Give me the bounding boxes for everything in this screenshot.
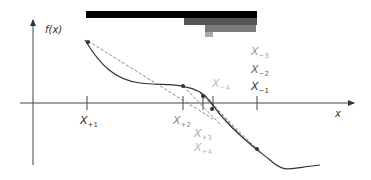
label-x-minus-4: X−4 (211, 77, 230, 92)
bar-3 (205, 25, 256, 32)
bar-2 (184, 18, 257, 25)
bar-4 (205, 32, 213, 37)
label-x-plus-2: X+2 (172, 114, 191, 129)
bar-1 (86, 11, 257, 18)
x-axis-label: x (334, 108, 341, 119)
iteration-points (86, 40, 259, 151)
convergence-bars (86, 11, 257, 37)
label-x-plus-1: X+1 (79, 114, 98, 129)
label-x-minus-3: X−3 (250, 45, 269, 60)
label-x-minus-1: X−1 (250, 80, 269, 95)
label-x-minus-2: X−2 (250, 63, 269, 78)
secant-method-diagram: f(x) x X−3 X−2 X−1 X−4 (0, 0, 371, 180)
label-x-plus-4: X+4 (193, 141, 212, 156)
right-labels: X−3 X−2 X−1 (250, 45, 269, 95)
tick-labels: X+1 X+2 X+3 X+4 (79, 114, 212, 156)
label-x-plus-3: X+3 (193, 127, 212, 142)
y-axis-label: f(x) (45, 24, 62, 35)
secant-lines (88, 41, 258, 150)
